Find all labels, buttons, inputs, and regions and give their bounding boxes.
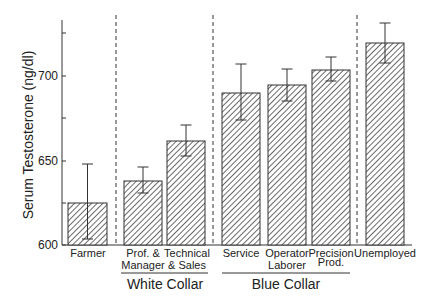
cat-precision-line2: Prod.	[318, 256, 344, 268]
bar-precision-prod	[312, 70, 350, 245]
cat-operator-line2: Laborer	[268, 259, 306, 271]
group-blue-collar: Blue Collar	[252, 276, 321, 292]
y-axis-label: Serum Testosterone (ng/dl)	[20, 51, 36, 220]
x-category-labels: Farmer Prof. & Manager Technical & Sales…	[70, 247, 416, 271]
cat-tech-line1: Technical	[164, 247, 210, 259]
y-tick-600: 600	[38, 238, 58, 252]
cat-farmer: Farmer	[70, 247, 106, 259]
y-tick-700: 700	[38, 69, 58, 83]
y-tick-650: 650	[38, 154, 58, 168]
bar-technical-sales	[167, 141, 205, 245]
group-white-collar: White Collar	[127, 276, 204, 292]
bars	[68, 43, 404, 245]
cat-operator-line1: Operator	[265, 247, 309, 259]
bar-unemployed	[366, 43, 404, 245]
cat-unemployed: Unemployed	[354, 247, 416, 259]
bar-operator-laborer	[268, 85, 306, 245]
bar-chart: 600 650 700 Serum Testosterone (ng/dl) F…	[0, 0, 435, 304]
cat-prof-line2: Manager	[121, 259, 165, 271]
y-axis: 600 650 700 Serum Testosterone (ng/dl)	[20, 20, 66, 252]
cat-tech-line2: & Sales	[168, 259, 206, 271]
cat-prof-line1: Prof. &	[126, 247, 160, 259]
cat-service: Service	[223, 247, 260, 259]
group-labels: White Collar Blue Collar	[121, 273, 350, 292]
